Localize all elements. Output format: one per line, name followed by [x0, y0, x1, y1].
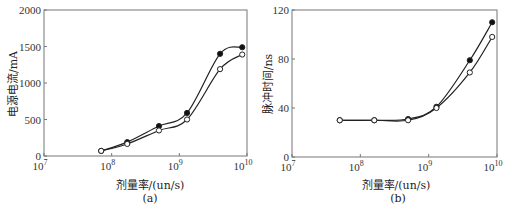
open-marker — [490, 34, 495, 39]
x-tick-label: 1010 — [484, 159, 503, 173]
series-line-open-markers — [340, 37, 492, 121]
open-marker — [156, 128, 161, 133]
filled-marker — [184, 110, 189, 115]
chart-b-y-axis-label: 脉冲时间/ns — [259, 44, 275, 124]
x-tick-label: 107 — [281, 159, 296, 173]
open-marker — [467, 70, 472, 75]
filled-marker — [490, 20, 495, 25]
y-tick-label: 2000 — [19, 4, 42, 16]
open-marker — [405, 118, 410, 123]
series-line-filled-markers — [101, 47, 242, 151]
plot-frame — [292, 10, 497, 157]
y-tick-label: 1000 — [19, 77, 42, 89]
x-tick-label: 107 — [33, 158, 48, 172]
y-tick-label: 120 — [273, 4, 290, 16]
chart-b-x-axis-label: 剂量率/(un/s) — [341, 176, 451, 192]
y-tick-label: 1500 — [19, 41, 42, 53]
open-marker — [372, 118, 377, 123]
x-tick-label: 109 — [168, 158, 183, 172]
y-tick-label: 500 — [25, 114, 42, 126]
x-tick-label: 108 — [100, 158, 115, 172]
y-tick-label: 80 — [278, 53, 290, 65]
open-marker — [240, 52, 245, 57]
filled-marker — [240, 45, 245, 50]
chart-b: 040801201071081091010 脉冲时间/ns 剂量率/(un/s)… — [255, 0, 510, 209]
filled-marker — [467, 58, 472, 63]
y-tick-label: 40 — [278, 102, 290, 114]
open-marker — [184, 117, 189, 122]
x-tick-label: 109 — [417, 159, 432, 173]
open-marker — [434, 105, 439, 110]
chart-a-y-axis-label: 电源电流/mA — [4, 44, 20, 124]
filled-marker — [217, 51, 222, 56]
x-tick-label: 1010 — [234, 158, 253, 172]
chart-a: 05001000150020001071081091010 电源电流/mA 剂量… — [0, 0, 255, 209]
x-tick-label: 108 — [349, 159, 364, 173]
chart-b-caption: (b) — [383, 192, 413, 205]
plot-frame — [44, 10, 247, 156]
open-marker — [217, 67, 222, 72]
chart-a-caption: (a) — [135, 192, 165, 205]
open-marker — [99, 148, 104, 153]
open-marker — [337, 118, 342, 123]
chart-a-x-axis-label: 剂量率/(un/s) — [95, 176, 205, 192]
open-marker — [125, 141, 130, 146]
